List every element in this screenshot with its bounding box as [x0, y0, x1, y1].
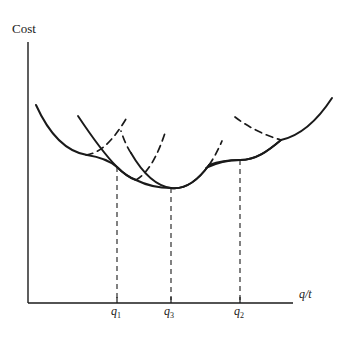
- tickmarks-group: [117, 297, 240, 303]
- srac-3-dashed-left-arc: [121, 131, 131, 153]
- lrac-envelope-arc-q1: [87, 155, 136, 180]
- tick-label-q3: q3: [164, 305, 174, 320]
- tick-q1-subscript: 1: [117, 311, 121, 320]
- lrac-envelope-left-arc: [36, 105, 87, 155]
- srac-4-dashed-arc: [235, 117, 281, 140]
- lrac-envelope-group: [36, 98, 332, 188]
- x-axis-label: q/t: [299, 288, 312, 300]
- y-axis-label: Cost: [12, 22, 36, 35]
- srac-4-solid-arc: [206, 140, 281, 168]
- srac-2-dashed-arc: [136, 133, 165, 180]
- lrac-envelope-arc-q3: [136, 165, 209, 188]
- axes-group: [28, 42, 293, 303]
- srac-dashed-extensions-group: [86, 117, 281, 180]
- tick-label-q2: q2: [234, 305, 244, 320]
- tick-q3-subscript: 3: [170, 311, 174, 320]
- tick-label-q1: q1: [111, 305, 121, 320]
- lrac-envelope-arc-q2: [209, 140, 281, 165]
- cost-curve-figure: Cost q/t q1 q3 q2: [0, 0, 353, 337]
- tick-q2-subscript: 2: [240, 311, 244, 320]
- lrac-envelope-right-arc: [281, 98, 332, 140]
- droplines-group: [117, 160, 240, 300]
